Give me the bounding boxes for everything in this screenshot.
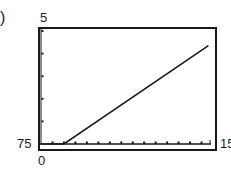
graph-line <box>41 46 208 144</box>
y-axis-ticks <box>42 30 44 122</box>
screen-frame <box>39 28 216 150</box>
calculator-graph-screen <box>0 0 231 177</box>
